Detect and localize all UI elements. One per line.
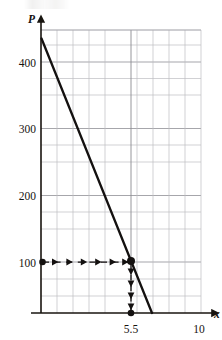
y-tick-label-100: 100 [19,257,37,269]
horizontal-trace-arrow [43,259,129,266]
point-on-y-axis [39,259,46,266]
horizontal-gridlines [41,30,201,296]
x-tick-labels: 5.5 10 [124,323,205,335]
y-tick-label-300: 300 [19,123,37,135]
demand-line [42,39,153,314]
y-tick-labels: 400 300 200 100 [19,57,37,269]
point-on-x-axis [128,310,135,317]
y-tick-label-400: 400 [19,57,37,69]
chart-svg: 400 300 200 100 5.5 10 P x [0,0,222,340]
y-axis-label: P [28,13,36,25]
vertical-trace-arrow [128,264,135,311]
x-tick-label-5-5: 5.5 [124,323,139,335]
chart-markers [39,257,135,316]
x-tick-label-10: 10 [193,323,205,335]
chart-figure: 400 300 200 100 5.5 10 P x [0,0,222,340]
y-tick-label-200: 200 [19,190,37,202]
x-axis-label: x [213,308,220,320]
chart-gridlines [41,30,201,313]
point-on-curve [127,257,135,265]
demand-line-segment [42,39,153,314]
